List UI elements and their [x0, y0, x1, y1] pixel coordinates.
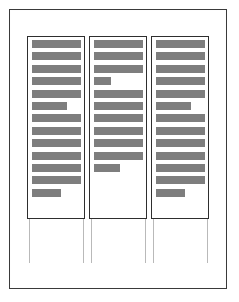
guide-column-1-left	[29, 219, 30, 263]
text-column-2	[89, 36, 147, 219]
text-line-bar	[94, 164, 121, 172]
text-line-bar	[156, 40, 205, 48]
text-line-bar	[32, 127, 81, 135]
text-line-bar	[94, 77, 111, 85]
text-line-bar	[32, 65, 81, 73]
text-column-3-lines	[156, 40, 205, 215]
text-line-bar	[156, 127, 205, 135]
text-line-bar	[94, 114, 143, 122]
document-thumbnail	[0, 0, 239, 302]
text-line-bar	[156, 77, 205, 85]
guide-column-1-right	[83, 219, 84, 263]
text-line-bar	[32, 40, 81, 48]
text-column-1	[27, 36, 85, 219]
text-line-bar	[94, 152, 143, 160]
text-line-bar	[32, 114, 81, 122]
text-column-2-lines	[94, 40, 143, 215]
guide-column-2-left	[91, 219, 92, 263]
text-line-bar	[32, 52, 81, 60]
text-line-bar	[156, 52, 205, 60]
text-line-bar	[32, 164, 81, 172]
text-column-1-box	[27, 36, 85, 219]
text-column-2-box	[89, 36, 147, 219]
text-column-3	[151, 36, 209, 219]
text-line-bar	[32, 176, 81, 184]
text-line-bar	[156, 164, 205, 172]
text-line-bar	[32, 102, 67, 110]
text-line-bar	[156, 152, 205, 160]
text-line-bar	[156, 65, 205, 73]
text-line-bar	[94, 65, 143, 73]
column-container	[0, 0, 239, 302]
text-line-bar	[156, 114, 205, 122]
text-line-bar	[32, 189, 61, 197]
text-line-bar	[156, 176, 205, 184]
text-line-bar	[32, 139, 81, 147]
guide-column-2-right	[145, 219, 146, 263]
text-line-bar	[32, 77, 81, 85]
text-column-1-lines	[32, 40, 81, 215]
text-line-bar	[94, 102, 143, 110]
text-line-bar	[156, 189, 185, 197]
text-line-bar	[94, 127, 143, 135]
text-line-bar	[94, 40, 143, 48]
text-line-bar	[156, 102, 191, 110]
text-line-bar	[32, 152, 81, 160]
guide-column-3-right	[207, 219, 208, 263]
text-line-bar	[94, 52, 143, 60]
text-line-bar	[156, 139, 205, 147]
text-column-3-box	[151, 36, 209, 219]
text-line-bar	[156, 90, 205, 98]
guide-column-3-left	[153, 219, 154, 263]
text-line-bar	[94, 139, 143, 147]
text-line-bar	[94, 90, 143, 98]
text-line-bar	[32, 90, 81, 98]
